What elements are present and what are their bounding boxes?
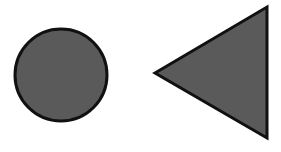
diagram-canvas xyxy=(0,0,281,152)
circle-shape xyxy=(15,29,107,121)
triangle-shape xyxy=(155,7,267,138)
